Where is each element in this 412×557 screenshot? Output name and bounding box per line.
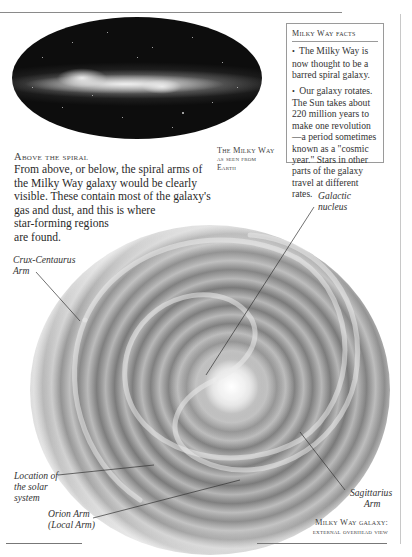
label-orion-arm: Orion Arm (Local Arm) — [48, 508, 95, 530]
fact-item: • The Milky Way is now thought to be a b… — [292, 45, 378, 80]
bottom-rule-left — [6, 543, 82, 544]
bullet-icon: • — [292, 47, 295, 56]
label-galactic-nucleus: Galactic nucleus — [318, 190, 351, 212]
right-margin-rule — [400, 14, 401, 544]
bullet-icon: • — [292, 87, 295, 96]
label-crux-centaurus-arm: Crux-Centaurus Arm — [13, 254, 75, 276]
top-rule — [0, 12, 342, 13]
earth-image-caption: The Milky Way as seen from Earth — [217, 147, 287, 172]
section-heading: Above the spiral — [14, 151, 88, 162]
fact-item: • Our galaxy rotates. The Sun takes abou… — [292, 85, 378, 200]
facts-title: Milky Way facts — [292, 28, 378, 42]
milky-way-from-earth-image — [12, 17, 262, 139]
label-solar-system-location: Location of the solar system — [14, 470, 58, 504]
bottom-rule-right — [257, 543, 387, 544]
galaxy-caption: Milky Way galaxy: external overhead view — [258, 518, 388, 536]
label-sagittarius-arm: Sagittarius Arm — [350, 487, 392, 509]
spiral-galaxy-image — [30, 225, 390, 555]
facts-box: Milky Way facts • The Milky Way is now t… — [286, 23, 384, 163]
